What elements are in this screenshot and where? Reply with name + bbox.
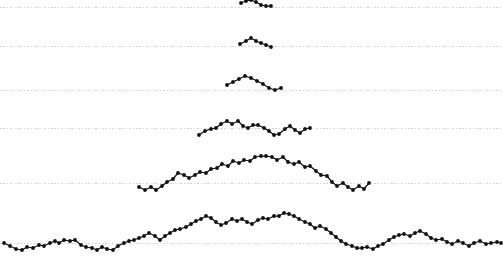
data-point bbox=[73, 238, 77, 242]
data-point bbox=[484, 242, 488, 246]
data-point bbox=[308, 126, 312, 130]
data-point bbox=[224, 221, 228, 225]
data-point bbox=[127, 239, 131, 243]
data-point bbox=[376, 244, 380, 248]
data-point bbox=[267, 86, 271, 90]
data-point bbox=[341, 181, 345, 185]
data-point bbox=[137, 236, 141, 240]
data-point bbox=[239, 1, 243, 5]
data-point bbox=[381, 242, 385, 246]
data-point bbox=[253, 155, 257, 159]
data-point bbox=[250, 222, 254, 226]
data-point bbox=[25, 245, 29, 249]
data-point bbox=[267, 129, 271, 133]
data-point bbox=[236, 119, 240, 123]
data-point bbox=[105, 247, 109, 251]
data-point bbox=[238, 42, 242, 46]
data-point bbox=[132, 238, 136, 242]
data-point bbox=[402, 232, 406, 236]
data-point bbox=[350, 244, 354, 248]
data-point bbox=[220, 162, 224, 166]
data-point bbox=[235, 219, 239, 223]
data-point bbox=[142, 234, 146, 238]
data-point bbox=[335, 184, 339, 188]
data-point bbox=[259, 41, 263, 45]
data-point bbox=[270, 155, 274, 159]
data-point bbox=[241, 124, 245, 128]
data-point bbox=[154, 188, 158, 192]
data-point bbox=[456, 239, 460, 243]
data-point bbox=[287, 212, 291, 216]
data-point bbox=[495, 240, 499, 244]
data-point bbox=[308, 164, 312, 168]
data-point bbox=[193, 173, 197, 177]
data-point bbox=[245, 220, 249, 224]
data-point bbox=[31, 246, 35, 250]
data-point bbox=[264, 4, 268, 8]
data-point bbox=[264, 43, 268, 47]
data-point bbox=[264, 154, 268, 158]
data-point bbox=[231, 159, 235, 163]
data-point bbox=[237, 77, 241, 81]
data-point bbox=[184, 225, 188, 229]
multi-series-line-chart bbox=[0, 0, 503, 262]
data-point bbox=[262, 126, 266, 130]
data-point bbox=[203, 129, 207, 133]
data-point bbox=[461, 241, 465, 245]
data-point bbox=[256, 123, 260, 127]
data-point bbox=[362, 187, 366, 191]
data-point bbox=[261, 82, 265, 86]
data-point bbox=[467, 244, 471, 248]
data-point bbox=[57, 241, 61, 245]
data-point bbox=[111, 248, 115, 252]
data-point bbox=[259, 3, 263, 7]
data-point bbox=[277, 132, 281, 136]
data-point bbox=[153, 234, 157, 238]
data-point bbox=[116, 244, 120, 248]
data-point bbox=[100, 245, 104, 249]
data-point bbox=[48, 241, 52, 245]
data-point bbox=[297, 160, 301, 164]
data-point bbox=[256, 218, 260, 222]
data-point bbox=[178, 227, 182, 231]
data-point bbox=[171, 177, 175, 181]
data-point bbox=[68, 239, 72, 243]
data-point bbox=[397, 233, 401, 237]
data-point bbox=[319, 173, 323, 177]
data-point bbox=[165, 180, 169, 184]
data-point bbox=[288, 124, 292, 128]
data-point bbox=[292, 162, 296, 166]
data-point bbox=[273, 88, 277, 92]
data-point bbox=[424, 232, 428, 236]
data-point bbox=[330, 180, 334, 184]
data-point bbox=[266, 217, 270, 221]
data-point bbox=[282, 211, 286, 215]
data-point bbox=[219, 122, 223, 126]
data-point bbox=[293, 128, 297, 132]
data-point bbox=[303, 220, 307, 224]
data-point bbox=[42, 244, 46, 248]
data-point bbox=[308, 222, 312, 226]
data-point bbox=[226, 164, 230, 168]
data-point bbox=[168, 231, 172, 235]
data-point bbox=[318, 224, 322, 228]
data-point bbox=[62, 238, 66, 242]
data-point bbox=[8, 244, 12, 248]
data-point bbox=[371, 247, 375, 251]
data-point bbox=[351, 188, 355, 192]
data-point bbox=[272, 214, 276, 218]
data-point bbox=[244, 39, 248, 43]
data-point bbox=[204, 214, 208, 218]
data-point bbox=[173, 228, 177, 232]
data-point bbox=[344, 242, 348, 246]
data-point bbox=[143, 188, 147, 192]
data-point bbox=[272, 133, 276, 137]
data-point bbox=[197, 133, 201, 137]
data-point bbox=[225, 83, 229, 87]
data-point bbox=[408, 234, 412, 238]
data-point bbox=[440, 237, 444, 241]
data-point bbox=[147, 231, 151, 235]
data-point bbox=[303, 165, 307, 169]
data-point bbox=[230, 122, 234, 126]
data-point bbox=[214, 126, 218, 130]
